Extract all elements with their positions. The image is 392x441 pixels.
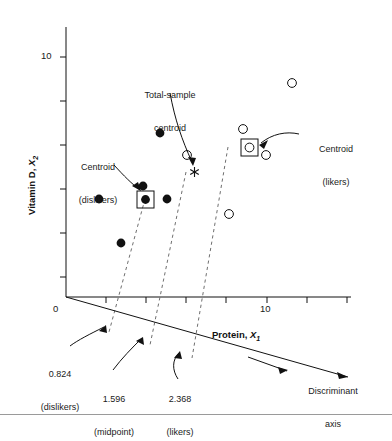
data-point-disliker [117,239,126,248]
cutting-score-midpoint-group: (midpoint) [77,427,151,438]
centroid-likers-box [241,139,258,156]
cutting-score-likers-group: (likers) [147,427,213,438]
data-point-disliker [163,195,172,204]
annotation-cutting-score-midpoint: 1.596 (midpoint) [77,372,151,441]
y-axis-title: Vitamin D, X2 [26,156,39,215]
bottom-divider [0,414,392,415]
arrowhead-total-sample-centroid [188,157,196,166]
centroid-likers-marker [241,139,258,156]
x-axis-title: Protein, X1 [212,329,260,342]
annotation-centroid-dislikers-line1: Centroid [62,162,134,173]
annotation-discriminant-axis-line1: Discriminant [291,386,375,397]
total-sample-centroid-marker [190,167,199,177]
centroid-dislikers-marker [137,191,154,208]
cutting-score-likers-value: 2.368 [147,394,213,405]
annotation-centroid-likers-line1: Centroid [300,144,372,155]
annotation-discriminant-axis-line2: axis [291,419,375,430]
annotation-cutting-score-likers: 2.368 (likers) [147,372,213,441]
annotation-centroid-likers-line2: (likers) [300,177,372,188]
leader-score-midpoint [113,339,141,370]
annotation-centroid-likers: Centroid (likers) [300,122,372,210]
annotation-total-sample-centroid-line1: Total-sample [122,90,218,101]
leader-score-dislikers [70,327,104,346]
data-point-liker [262,151,271,160]
annotation-centroid-dislikers-line2: (dislikers) [62,195,134,206]
y-tick-label-10: 10 [41,50,52,61]
annotation-discriminant-axis: Discriminant axis [291,364,375,441]
annotation-total-sample-centroid-line2: centroid [122,123,218,134]
x-tick-label-0: 0 [53,303,58,314]
data-point-liker [225,210,234,219]
data-point-liker [288,79,297,88]
leader-discriminant-axis [248,357,287,371]
x-axis-ticks [106,297,347,303]
annotation-centroid-dislikers: Centroid (dislikers) [62,140,134,228]
centroid-likers-dot [245,143,254,152]
annotation-total-sample-centroid: Total-sample centroid [122,68,218,156]
projection-line-likers [192,147,228,358]
x-tick-label-10: 10 [260,303,271,314]
data-point-liker [239,125,248,134]
arrowhead-score-midpoint [136,337,144,345]
arrowhead-score-likers [174,351,182,359]
cutting-score-midpoint-value: 1.596 [77,394,151,405]
centroid-dislikers-dot [141,195,150,204]
